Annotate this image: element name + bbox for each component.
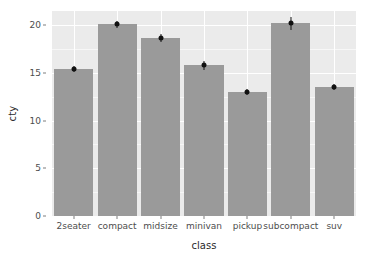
bar-subcompact <box>271 23 310 216</box>
x-axis-tick-label-minivan: minivan <box>186 221 222 231</box>
bar-compact <box>98 24 137 216</box>
data-point-minivan <box>202 63 207 68</box>
x-axis-tick-label-compact: compact <box>98 221 137 231</box>
data-point-midsize <box>158 35 163 40</box>
y-axis-tick-label: 5 <box>15 163 46 173</box>
x-axis-title-label: class <box>192 240 217 251</box>
data-point-compact <box>115 22 120 27</box>
x-axis-tick-mark <box>290 216 291 219</box>
data-point-2seater <box>71 67 76 72</box>
x-axis-title: class <box>52 240 356 251</box>
x-axis-tick-label-midsize: midsize <box>143 221 177 231</box>
bar-2seater <box>54 69 93 216</box>
bar-midsize <box>141 38 180 216</box>
data-point-subcompact <box>288 21 293 26</box>
x-axis-tick-label-pickup: pickup <box>233 221 263 231</box>
y-axis-tick-label: 10 <box>15 116 46 126</box>
y-axis-tick-label: 0 <box>15 211 46 221</box>
x-axis-tick-mark <box>73 216 74 219</box>
y-axis-tick-label: 20 <box>15 20 46 30</box>
y-axis-tick-mark <box>43 120 46 121</box>
y-axis-tick-mark <box>43 72 46 73</box>
bar-pickup <box>228 92 267 216</box>
y-axis-tick-mark <box>43 25 46 26</box>
chart-container: cty 05101520 2seatercompactmidsizeminiva… <box>0 0 373 263</box>
x-axis-tick-label-suv: suv <box>326 221 342 231</box>
y-axis-tick-mark <box>43 216 46 217</box>
x-axis-tick-mark <box>204 216 205 219</box>
data-point-pickup <box>245 90 250 95</box>
x-axis-tick-mark <box>247 216 248 219</box>
data-point-suv <box>332 85 337 90</box>
y-axis-tick-label: 15 <box>15 68 46 78</box>
y-axis-tick-labels: 05101520 <box>20 11 46 216</box>
bar-minivan <box>184 65 223 216</box>
y-axis-tick-mark <box>43 168 46 169</box>
x-axis-tick-labels: 2seatercompactmidsizeminivanpickupsubcom… <box>52 216 356 236</box>
x-axis-tick-mark <box>117 216 118 219</box>
x-axis-tick-label-subcompact: subcompact <box>263 221 318 231</box>
plot-panel <box>52 11 356 216</box>
x-axis-tick-mark <box>160 216 161 219</box>
bar-suv <box>315 87 354 216</box>
x-axis-tick-label-2seater: 2seater <box>57 221 91 231</box>
x-axis-tick-mark <box>334 216 335 219</box>
